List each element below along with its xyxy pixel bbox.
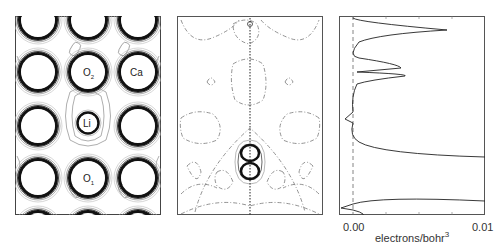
x-axis-label: electrons/bohr3 — [375, 230, 449, 244]
difference-density-contour — [177, 16, 323, 215]
x-axis-label-text: electrons/bohr — [375, 232, 445, 244]
panel-difference-density — [177, 16, 323, 215]
x-axis-label-exponent: 3 — [445, 230, 449, 239]
panel-total-density: O2 Ca Li O1 — [15, 16, 161, 215]
total-density-contour: O2 Ca Li O1 — [15, 16, 161, 215]
density-profile-plot — [339, 16, 485, 215]
atom-label-ca: Ca — [130, 67, 143, 78]
x-tick-1: 0.01 — [472, 221, 493, 233]
atom-label-li: Li — [83, 118, 91, 129]
x-tick-0: 0.00 — [343, 221, 364, 233]
panel-density-profile — [339, 16, 485, 215]
